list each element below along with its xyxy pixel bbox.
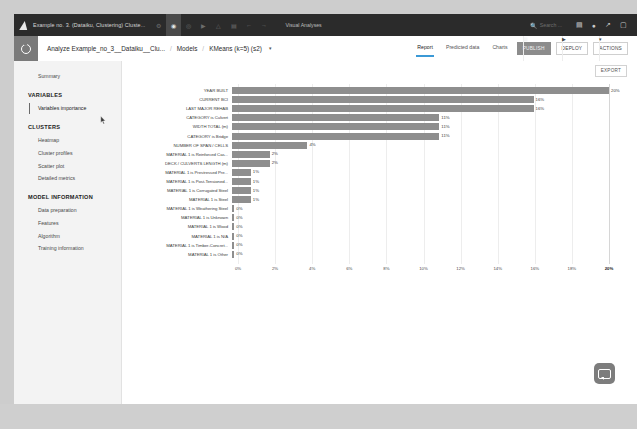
sidebar-item-algorithm[interactable]: Algorithm (14, 229, 121, 242)
tab-charts[interactable]: Charts (492, 44, 507, 53)
actions-button-label: ACTIONS (599, 46, 622, 51)
export-button[interactable]: EXPORT (595, 65, 627, 77)
chart-icon[interactable]: ↗ (605, 21, 611, 29)
sidebar-item-training-information[interactable]: Training information (14, 242, 121, 255)
chart-category-label: CATEGORY is Bridge (132, 134, 232, 139)
chart-value-label: 0% (236, 233, 242, 238)
chart-value-label: 1% (253, 188, 259, 193)
chart-bar-row: MATERIAL 1 is Post-Tensioned...1% (132, 177, 609, 186)
play-icon: ▶ (562, 36, 563, 61)
chart-bar-row: NUMBER OF SPAN / CELLS4% (132, 141, 609, 150)
dataset-icon[interactable]: ◉ (166, 14, 181, 36)
chart-bar[interactable] (232, 251, 234, 258)
chart-value-label: 1% (253, 169, 259, 174)
redo-icon[interactable]: → (256, 14, 271, 36)
chat-bubble-icon[interactable] (594, 363, 615, 384)
publish-button-label: PUBLISH (523, 46, 545, 51)
chart-bar[interactable] (232, 142, 307, 149)
dataiku-logo-icon[interactable] (19, 21, 28, 30)
application-window: Example no. 3. (Dataiku, Clustering) Clu… (0, 0, 637, 429)
variables-importance-chart: YEAR BUILT20%CURRENT BCI16%LAST MAJOR RE… (122, 80, 637, 404)
sidebar-item-data-preparation[interactable]: Data preparation (14, 204, 121, 217)
calendar-icon[interactable]: ▤ (576, 21, 583, 29)
chart-bar-track: 0% (232, 250, 609, 259)
top-toolbar-icons: ⚙ ◉ ◎ ▶ △ ▤ ← → (151, 14, 271, 36)
chart-bar[interactable] (232, 223, 234, 230)
chart-bar[interactable] (232, 196, 251, 203)
chart-bar-track: 1% (232, 195, 609, 204)
grid-icon[interactable]: ▤ (226, 14, 241, 36)
chart-value-label: 0% (236, 242, 242, 247)
flow-icon[interactable]: ⚙ (151, 14, 166, 36)
project-logo-icon[interactable] (14, 36, 38, 61)
tab-report[interactable]: Report (417, 44, 433, 53)
warning-icon[interactable]: △ (211, 14, 226, 36)
chart-category-label: MATERIAL 1 is Timber-Concret... (132, 243, 232, 248)
chevron-down-icon[interactable]: ▾ (269, 46, 272, 51)
chart-bar-row: DECK / CULVERTS LENGTH (m)2% (132, 159, 609, 168)
tab-predicted-data[interactable]: Predicted data (446, 44, 479, 53)
chart-bar-track: 16% (232, 95, 609, 104)
sidebar-item-heatmap[interactable]: Heatmap (14, 134, 121, 147)
chevron-down-icon: ▾ (599, 36, 600, 61)
actions-button[interactable]: ACTIONS ▾ (593, 42, 628, 55)
chart-bar[interactable] (232, 105, 534, 112)
chart-bar[interactable] (232, 169, 251, 176)
sidebar-item-scatter-plot[interactable]: Scatter plot (14, 159, 121, 172)
chart-bar[interactable] (232, 96, 534, 103)
chart-bar[interactable] (232, 205, 234, 212)
chart-x-tick-label: 2% (272, 266, 278, 271)
chart-category-label: DECK / CULVERTS LENGTH (m) (132, 161, 232, 166)
chart-category-label: MATERIAL 1 is Corrugated Steel (132, 188, 232, 193)
chart-bar[interactable] (232, 178, 251, 185)
chart-bar-track: 1% (232, 177, 609, 186)
undo-icon[interactable]: ← (241, 14, 256, 36)
help-icon[interactable]: ● (592, 22, 596, 29)
breadcrumb-item-models[interactable]: Models (177, 45, 198, 52)
deploy-button-label: DEPLOY (562, 46, 583, 51)
global-search[interactable]: 🔍 Search ... (530, 22, 562, 29)
chart-category-label: MATERIAL 1 is Weathering Steel (132, 206, 232, 211)
chart-category-label: MATERIAL 1 is Reinforced Cas... (132, 152, 232, 157)
chart-bar-row: CATEGORY is Bridge11% (132, 131, 609, 140)
play-icon[interactable]: ▶ (196, 14, 211, 36)
chart-bar[interactable] (232, 123, 439, 130)
sidebar-item-variables-importance[interactable]: Variables importance (14, 102, 121, 115)
chart-bar[interactable] (232, 214, 234, 221)
chart-bar-row: MATERIAL 1 is Wood0% (132, 222, 609, 231)
search-icon: 🔍 (530, 22, 537, 29)
publish-icon: ▦ (523, 36, 524, 61)
chart-category-label: MATERIAL 1 is Prestressed Pre... (132, 170, 232, 175)
breadcrumb-item-analysis[interactable]: Analyze Example_no_3__Dataiku__Clu... (47, 45, 165, 52)
chart-bar[interactable] (232, 233, 234, 240)
chart-value-label: 16% (536, 97, 545, 102)
publish-button[interactable]: ▦ PUBLISH (517, 42, 551, 55)
chart-bar[interactable] (232, 187, 251, 194)
chart-bar[interactable] (232, 151, 270, 158)
deploy-button[interactable]: ▶ DEPLOY (556, 42, 589, 55)
breadcrumb-bar: Analyze Example_no_3__Dataiku__Clu... / … (14, 36, 637, 62)
chart-category-label: MATERIAL 1 is Post-Tensioned... (132, 179, 232, 184)
chart-bar[interactable] (232, 114, 439, 121)
chart-bar[interactable] (232, 242, 234, 249)
chart-bar-track: 11% (232, 131, 609, 140)
sidebar-item-features[interactable]: Features (14, 216, 121, 229)
sidebar-item-summary[interactable]: Summary (14, 70, 121, 83)
chart-x-tick-label: 8% (383, 266, 389, 271)
mouse-cursor (98, 115, 107, 126)
search-input[interactable]: Search ... (540, 22, 562, 28)
chart-bar-track: 11% (232, 122, 609, 131)
chart-bar-rows: YEAR BUILT20%CURRENT BCI16%LAST MAJOR RE… (132, 86, 609, 259)
chart-bar[interactable] (232, 133, 439, 140)
breadcrumb-item-model[interactable]: KMeans (k=5) (s2) (209, 45, 262, 52)
sidebar-item-cluster-profiles[interactable]: Cluster profiles (14, 146, 121, 159)
chart-bar[interactable] (232, 87, 609, 94)
sidebar-item-detailed-metrics[interactable]: Detailed metrics (14, 172, 121, 185)
chart-bar-track: 4% (232, 141, 609, 150)
chart-category-label: MATERIAL 1 is N/A (132, 234, 232, 239)
chart-bar[interactable] (232, 160, 270, 167)
recipe-icon[interactable]: ◎ (181, 14, 196, 36)
user-icon[interactable]: ▢ (620, 21, 627, 29)
chart-category-label: YEAR BUILT (132, 88, 232, 93)
action-buttons: ▦ PUBLISH ▶ DEPLOY ACTIONS ▾ (517, 42, 628, 55)
